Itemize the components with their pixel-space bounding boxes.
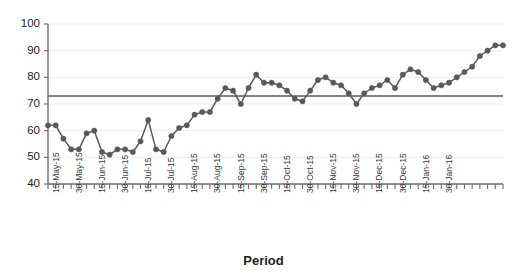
y-axis-tick-label: 60 [6, 125, 40, 137]
data-point-marker [261, 80, 266, 85]
x-axis-tick-label: 30-May-15 [75, 152, 84, 193]
data-point-marker [400, 72, 405, 77]
series-line [48, 45, 503, 154]
x-axis-tick-label: 15-May-15 [52, 152, 61, 193]
data-point-marker [192, 112, 197, 117]
x-axis-tick-label: 15-Dec-15 [375, 153, 384, 193]
data-point-marker [123, 147, 128, 152]
x-axis-tick-label: 15-Jun-15 [98, 155, 107, 193]
line-chart: 405060708090100 15-May-1530-May-1515-Jun… [0, 0, 527, 280]
x-axis-tick-label: 15-Oct-15 [283, 155, 292, 193]
y-axis-tick-label: 50 [6, 151, 40, 163]
data-point-marker [331, 80, 336, 85]
x-axis-tick-label: 30-Oct-15 [306, 155, 315, 193]
data-point-marker [177, 125, 182, 130]
y-axis-tick-label: 80 [6, 71, 40, 83]
x-axis-tick-label: 15-Jul-15 [144, 158, 153, 193]
data-point-marker [200, 109, 205, 114]
x-axis-tick-label: 15-Jan-16 [422, 155, 431, 193]
data-point-marker [485, 48, 490, 53]
data-point-marker [493, 43, 498, 48]
data-point-marker [416, 69, 421, 74]
x-axis-title: Period [0, 253, 527, 268]
data-point-marker [184, 123, 189, 128]
data-point-marker [423, 77, 428, 82]
y-axis-tick-label: 40 [6, 178, 40, 190]
data-point-marker [470, 64, 475, 69]
data-point-marker [115, 147, 120, 152]
data-point-marker [138, 139, 143, 144]
data-point-marker [431, 85, 436, 90]
data-point-marker [215, 96, 220, 101]
y-axis-tick-label: 90 [6, 45, 40, 57]
data-point-marker [323, 75, 328, 80]
x-axis-tick-label: 15-Nov-15 [329, 153, 338, 193]
x-axis-tick-label: 30-Aug-15 [213, 153, 222, 193]
y-axis-tick-label: 100 [6, 18, 40, 30]
data-point-marker [230, 88, 235, 93]
data-point-marker [238, 101, 243, 106]
data-point-marker [146, 117, 151, 122]
data-point-marker [315, 77, 320, 82]
data-point-marker [308, 88, 313, 93]
x-axis-tick-label: 30-Jun-15 [121, 155, 130, 193]
data-point-marker [462, 69, 467, 74]
x-axis-tick-label: 30-Jul-15 [167, 158, 176, 193]
data-point-marker [53, 123, 58, 128]
data-point-marker [392, 85, 397, 90]
data-point-marker [338, 83, 343, 88]
x-axis-tick-label: 30-Sep-15 [260, 153, 269, 193]
data-point-marker [246, 85, 251, 90]
data-point-marker [346, 91, 351, 96]
data-point-marker [408, 67, 413, 72]
data-point-marker [92, 128, 97, 133]
data-point-marker [362, 91, 367, 96]
data-point-marker [61, 136, 66, 141]
data-point-marker [377, 83, 382, 88]
x-axis-tick-label: 15-Aug-15 [190, 153, 199, 193]
x-axis-tick-label: 15-Sep-15 [237, 153, 246, 193]
y-axis-tick-label: 70 [6, 98, 40, 110]
data-point-marker [446, 80, 451, 85]
data-point-marker [169, 133, 174, 138]
data-point-marker [500, 43, 505, 48]
data-point-marker [300, 99, 305, 104]
data-point-marker [107, 152, 112, 157]
data-point-marker [269, 80, 274, 85]
data-point-marker [477, 53, 482, 58]
data-point-marker [385, 77, 390, 82]
data-point-marker [223, 85, 228, 90]
data-point-marker [207, 109, 212, 114]
data-point-marker [153, 147, 158, 152]
data-point-marker [284, 88, 289, 93]
data-point-marker [84, 131, 89, 136]
data-point-marker [254, 72, 259, 77]
data-point-marker [354, 101, 359, 106]
x-axis-tick-label: 30-Dec-15 [399, 153, 408, 193]
chart-canvas [0, 0, 527, 280]
data-point-marker [69, 147, 74, 152]
data-point-marker [292, 96, 297, 101]
data-point-marker [369, 85, 374, 90]
data-point-marker [439, 83, 444, 88]
data-point-marker [454, 75, 459, 80]
data-point-marker [45, 123, 50, 128]
data-point-marker [161, 149, 166, 154]
data-point-marker [130, 149, 135, 154]
data-point-marker [277, 83, 282, 88]
x-axis-tick-label: 30-Nov-15 [352, 153, 361, 193]
x-axis-tick-label: 30-Jan-16 [445, 155, 454, 193]
